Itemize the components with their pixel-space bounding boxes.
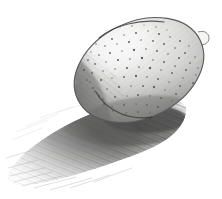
drawing-canvas: Pencil study of a lemon with cast shadow… — [0, 0, 222, 199]
pencil-drawing-svg — [0, 0, 222, 199]
